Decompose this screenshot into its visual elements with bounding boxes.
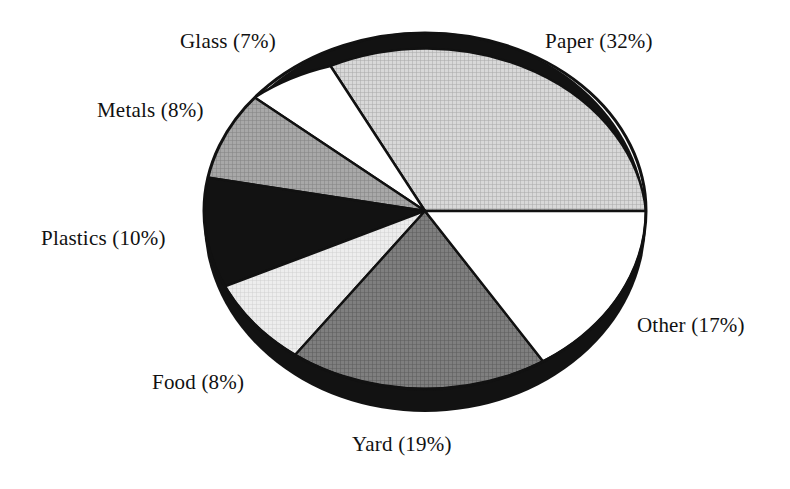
slice-label-yard: Yard (19%) bbox=[352, 433, 452, 456]
slice-label-other: Other (17%) bbox=[637, 314, 745, 337]
slice-label-paper: Paper (32%) bbox=[545, 30, 653, 53]
slice-label-plastics: Plastics (10%) bbox=[41, 227, 166, 250]
slice-label-glass: Glass (7%) bbox=[180, 30, 276, 53]
slice-label-metals: Metals (8%) bbox=[97, 99, 204, 122]
pie-chart-figure: Paper (32%) Glass (7%) Metals (8%) Plast… bbox=[0, 0, 790, 489]
slice-label-food: Food (8%) bbox=[152, 371, 244, 394]
